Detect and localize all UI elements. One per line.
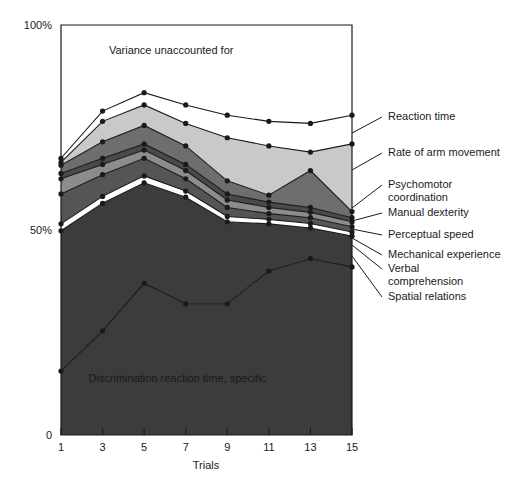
series-label-manual-dexterity: Manual dexterity [388,206,469,218]
data-point-marker [183,168,188,173]
data-point-marker [142,173,147,178]
series-label-mechanical-experience: Mechanical experience [388,248,501,260]
chart-container: 13579111315 Reaction timeRate of arm mov… [0,0,519,487]
x-axis-tick-label: 7 [183,441,189,453]
data-point-marker [183,176,188,181]
x-axis-tick-label: 3 [100,441,106,453]
data-point-marker [266,119,271,124]
x-axis-tick-label: 9 [224,441,230,453]
data-point-marker [308,221,313,226]
data-point-marker [142,123,147,128]
series-label-psychomotor-coordination-line2: coordination [388,191,448,203]
x-axis-tick-label: 15 [346,441,358,453]
data-point-marker [308,121,313,126]
data-point-marker [142,141,147,146]
data-point-marker [225,301,230,306]
data-point-marker [100,119,105,124]
data-point-marker [266,221,271,226]
data-point-marker [183,162,188,167]
data-point-marker [183,102,188,107]
data-point-marker [100,162,105,167]
data-point-marker [183,195,188,200]
y-axis-mid-label: 50% [30,224,52,236]
data-point-marker [100,109,105,114]
data-point-marker [142,147,147,152]
data-point-marker [142,102,147,107]
series-label-verbal-comprehension: Verbal [388,262,419,274]
data-point-marker [100,328,105,333]
series-label-reaction-time: Reaction time [388,110,455,122]
data-point-marker [142,156,147,161]
data-point-marker [225,113,230,118]
data-point-marker [308,215,313,220]
data-point-marker [225,219,230,224]
data-point-marker [266,268,271,273]
data-point-marker [225,214,230,219]
data-point-marker [308,168,313,173]
plot-annotation: Discrimination reaction time, specific [88,372,266,384]
series-label-rate-of-arm-movement: Rate of arm movement [388,146,500,158]
x-axis-title: Trials [193,459,220,471]
series-label-spatial-relations: Spatial relations [388,290,467,302]
x-axis-tick-label: 11 [263,441,274,453]
data-point-marker [142,281,147,286]
data-point-marker [308,205,313,210]
data-point-marker [225,178,230,183]
data-point-marker [183,301,188,306]
data-point-marker [266,217,271,222]
data-point-marker [266,143,271,148]
variance-stacked-area-chart: 13579111315 Reaction timeRate of arm mov… [0,0,519,487]
data-point-marker [100,172,105,177]
plot-annotation: Variance unaccounted for [109,44,234,56]
data-point-marker [308,150,313,155]
x-axis-tick-label: 5 [141,441,147,453]
data-point-marker [266,211,271,216]
y-axis-top-label: 100% [24,19,52,31]
data-point-marker [142,90,147,95]
series-label-psychomotor-coordination: Psychomotor [388,178,453,190]
data-point-marker [183,188,188,193]
data-point-marker [308,256,313,261]
data-point-marker [225,191,230,196]
data-point-marker [225,205,230,210]
data-point-marker [266,193,271,198]
data-point-marker [183,121,188,126]
data-point-marker [100,156,105,161]
data-point-marker [100,139,105,144]
data-point-marker [225,197,230,202]
data-point-marker [266,200,271,205]
y-axis-bottom-label: 0 [46,429,52,441]
data-point-marker [142,180,147,185]
data-point-marker [308,210,313,215]
data-point-marker [183,143,188,148]
data-point-marker [100,194,105,199]
x-axis-tick-label: 1 [58,441,64,453]
data-point-marker [100,201,105,206]
data-point-marker [308,225,313,230]
series-label-verbal-comprehension-line2: comprehension [388,275,463,287]
x-axis-tick-label: 13 [304,441,316,453]
data-point-marker [266,205,271,210]
series-label-perceptual-speed: Perceptual speed [388,228,474,240]
data-point-marker [225,135,230,140]
